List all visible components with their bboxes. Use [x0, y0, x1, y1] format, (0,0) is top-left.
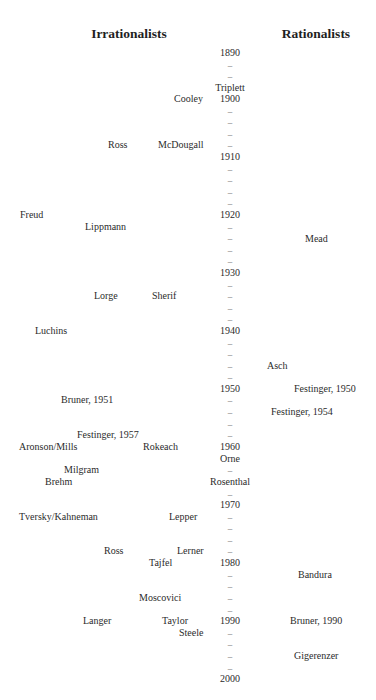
timeline-tick-mark: –: [228, 650, 233, 662]
irrationalist-name: Lepper: [169, 511, 197, 523]
irrationalist-name: Lerner: [177, 545, 204, 557]
timeline-tick-mark: –: [228, 174, 233, 186]
timeline-tick-mark: –: [228, 371, 233, 383]
timeline-tick-mark: –: [228, 464, 233, 476]
irrationalist-name: Luchins: [35, 325, 67, 337]
timeline-tick-mark: –: [228, 255, 233, 267]
timeline-year: 1990: [220, 615, 240, 627]
timeline-tick-mark: –: [228, 406, 233, 418]
irrationalist-name: Bruner, 1951: [61, 394, 113, 406]
rationalist-name: Bandura: [298, 569, 332, 581]
timeline-tick-mark: –: [228, 313, 233, 325]
irrationalist-name: Tversky/Kahneman: [19, 511, 98, 523]
timeline-tick-mark: –: [228, 522, 233, 534]
irrationalist-name: Lippmann: [85, 221, 126, 233]
timeline-name: Rosenthal: [210, 476, 250, 488]
timeline-tick-mark: –: [228, 592, 233, 604]
irrationalist-name: McDougall: [158, 139, 204, 151]
timeline-tick-mark: –: [228, 197, 233, 209]
timeline-year: 1910: [220, 151, 240, 163]
irrationalist-name: Ross: [104, 545, 123, 557]
timeline-tick-mark: –: [228, 638, 233, 650]
timeline-tick-mark: –: [228, 580, 233, 592]
timeline-year: 1940: [220, 325, 240, 337]
timeline-year: 1970: [220, 499, 240, 511]
irrationalist-name: Aronson/Mills: [19, 441, 77, 453]
timeline-tick-mark: –: [228, 348, 233, 360]
timeline-tick-mark: –: [228, 290, 233, 302]
irrationalist-name: Langer: [83, 615, 111, 627]
irrationalist-name: Festinger, 1957: [77, 429, 139, 441]
timeline-tick-mark: –: [228, 232, 233, 244]
irrationalist-name: Moscovici: [139, 592, 181, 604]
irrationalist-name: Milgram: [64, 464, 99, 476]
timeline-year: 1980: [220, 557, 240, 569]
timeline-year: 1930: [220, 267, 240, 279]
timeline-year: 1920: [220, 209, 240, 221]
irrationalist-name: Ross: [108, 139, 127, 151]
heading-irrationalists: Irrationalists: [91, 26, 167, 42]
rationalist-name: Festinger, 1954: [271, 406, 333, 418]
rationalist-name: Mead: [305, 233, 328, 245]
heading-rationalists: Rationalists: [282, 26, 350, 42]
rationalist-name: Asch: [267, 360, 288, 372]
irrationalist-name: Brehm: [45, 476, 72, 488]
irrationalist-name: Tajfel: [149, 557, 172, 569]
timeline-tick-mark: –: [228, 429, 233, 441]
timeline-year: 1960: [220, 441, 240, 453]
timeline-year: 1890: [220, 47, 240, 59]
timeline-year: 1900: [220, 93, 240, 105]
irrationalist-name: Freud: [20, 209, 43, 221]
timeline-tick-mark: –: [228, 139, 233, 151]
rationalist-name: Bruner, 1990: [290, 615, 342, 627]
irrationalist-name: Taylor: [162, 615, 188, 627]
irrationalist-name: Steele: [179, 627, 203, 639]
timeline-tick-mark: –: [228, 545, 233, 557]
irrationalist-name: Sherif: [152, 290, 176, 302]
rationalist-name: Gigerenzer: [294, 650, 338, 662]
timeline-tick-mark: –: [228, 116, 233, 128]
irrationalist-name: Cooley: [174, 93, 203, 105]
timeline-tick-mark: –: [228, 394, 233, 406]
timeline-tick-mark: –: [228, 70, 233, 82]
rationalist-name: Festinger, 1950: [294, 383, 356, 395]
irrationalist-name: Rokeach: [143, 441, 178, 453]
irrationalist-name: Lorge: [94, 290, 118, 302]
timeline-year: 2000: [220, 673, 240, 685]
